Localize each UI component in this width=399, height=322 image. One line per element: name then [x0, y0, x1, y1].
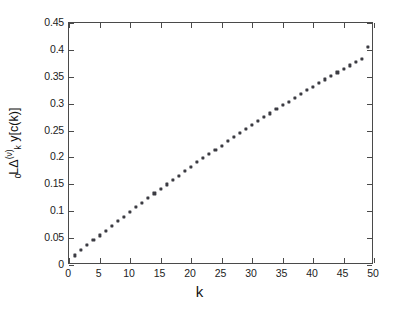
x-tick-mark	[283, 23, 284, 28]
data-point	[250, 124, 253, 127]
x-tick-mark	[100, 258, 101, 263]
data-point	[232, 135, 235, 138]
x-tick-mark	[69, 258, 70, 263]
y-tick-label: 0.35	[44, 70, 64, 82]
data-point	[92, 239, 95, 242]
y-tick-label: 0	[58, 258, 64, 270]
data-point	[366, 46, 369, 49]
x-tick-mark	[374, 23, 375, 28]
data-point	[324, 78, 327, 81]
data-point	[202, 156, 205, 159]
y-tick-mark	[69, 211, 74, 212]
y-axis-title-leading: L	[7, 168, 21, 175]
data-point	[305, 89, 308, 92]
data-point	[354, 61, 357, 64]
data-point	[122, 215, 125, 218]
data-point	[141, 201, 144, 204]
data-point	[311, 85, 314, 88]
data-point	[98, 234, 101, 237]
data-point	[116, 219, 119, 222]
y-tick-mark	[367, 50, 372, 51]
data-point	[257, 119, 260, 122]
data-point	[104, 229, 107, 232]
y-tick-mark	[69, 131, 74, 132]
y-tick-label: 0.3	[50, 97, 64, 109]
data-point	[269, 112, 272, 115]
data-point	[293, 96, 296, 99]
x-tick-label: 30	[245, 267, 256, 279]
x-tick-label: 35	[276, 267, 287, 279]
data-point	[263, 116, 266, 119]
data-point	[110, 224, 113, 227]
data-point	[336, 71, 339, 74]
data-point	[348, 64, 351, 67]
x-tick-mark	[130, 23, 131, 28]
data-point	[330, 75, 333, 78]
y-tick-label: 0.45	[44, 16, 64, 28]
y-tick-label: 0.25	[44, 124, 64, 136]
x-tick-mark	[374, 258, 375, 263]
x-tick-label: 25	[215, 267, 226, 279]
y-tick-mark	[367, 265, 372, 266]
y-axis-title-function: y[c(k)]	[7, 108, 21, 142]
y-tick-mark	[367, 131, 372, 132]
y-tick-label: 0.15	[44, 177, 64, 189]
data-point	[196, 161, 199, 164]
y-tick-mark	[69, 184, 74, 185]
data-point	[226, 140, 229, 143]
y-tick-mark	[367, 211, 372, 212]
x-tick-mark	[313, 258, 314, 263]
x-tick-mark	[344, 23, 345, 28]
x-tick-mark	[222, 258, 223, 263]
y-tick-label: 0.4	[50, 43, 64, 55]
data-point	[171, 178, 174, 181]
x-tick-mark	[191, 23, 192, 28]
x-tick-mark	[161, 23, 162, 28]
data-point	[165, 183, 168, 186]
y-tick-mark	[69, 157, 74, 158]
data-point	[318, 82, 321, 85]
data-point	[360, 57, 363, 60]
x-tick-mark	[161, 258, 162, 263]
x-tick-mark	[344, 258, 345, 263]
y-axis-title-superscript: (ν)	[4, 149, 14, 159]
x-tick-mark	[130, 258, 131, 263]
x-tick-label: 45	[337, 267, 348, 279]
data-point	[189, 165, 192, 168]
x-tick-mark	[252, 258, 253, 263]
data-point	[147, 196, 150, 199]
y-tick-mark	[367, 77, 372, 78]
data-point	[86, 244, 89, 247]
x-tick-label: 15	[154, 267, 165, 279]
y-axis-title: 0LΔ(ν)k y[c(k)]	[5, 108, 22, 179]
x-tick-label: 10	[123, 267, 134, 279]
x-tick-label: 40	[306, 267, 317, 279]
x-axis-title: k	[0, 283, 399, 300]
y-tick-mark	[367, 23, 372, 24]
x-tick-label: 5	[96, 267, 102, 279]
data-point	[153, 192, 156, 195]
x-tick-mark	[313, 23, 314, 28]
x-tick-mark	[191, 258, 192, 263]
y-tick-mark	[69, 50, 74, 51]
data-point	[177, 174, 180, 177]
scatter-series	[69, 23, 372, 263]
data-point	[281, 104, 284, 107]
data-point	[342, 68, 345, 71]
y-tick-label: 0.2	[50, 150, 64, 162]
x-tick-mark	[222, 23, 223, 28]
y-tick-mark	[367, 104, 372, 105]
x-tick-label: 20	[184, 267, 195, 279]
data-point	[287, 100, 290, 103]
data-point	[214, 148, 217, 151]
data-point	[299, 92, 302, 95]
y-tick-mark	[69, 104, 74, 105]
data-point	[208, 152, 211, 155]
y-axis-title-operator: Δ	[7, 159, 21, 167]
y-axis-title-subscript: k	[13, 145, 23, 149]
y-tick-mark	[69, 77, 74, 78]
y-tick-mark	[69, 23, 74, 24]
x-tick-label: 0	[65, 267, 71, 279]
x-tick-mark	[252, 23, 253, 28]
y-tick-mark	[69, 238, 74, 239]
